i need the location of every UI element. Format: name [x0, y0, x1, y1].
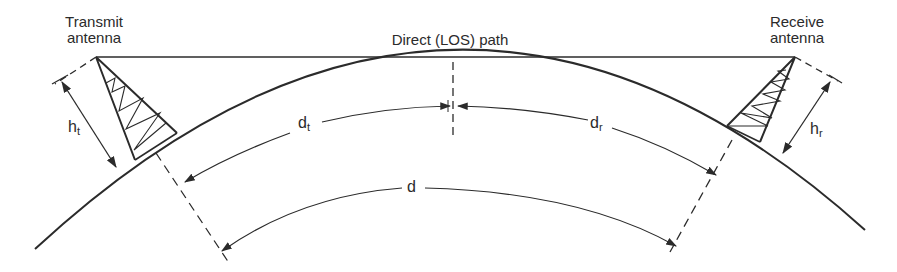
los-path-label: Direct (LOS) path	[330, 32, 570, 48]
dr-distance-arrow	[612, 128, 716, 175]
transmit-antenna-tower	[96, 57, 177, 160]
total-distance-arrow-right	[425, 188, 676, 246]
receive-label-line2: antenna	[747, 30, 847, 46]
left-radial-dashed-line	[156, 153, 229, 263]
dt-label: dt	[296, 115, 312, 135]
right-radial-dashed-line	[670, 140, 732, 252]
dt-distance-arrow	[185, 133, 290, 182]
receive-label-line1: Receive	[747, 14, 847, 30]
receive-antenna-label: Receive antenna	[747, 14, 847, 46]
d-label: d	[405, 179, 418, 195]
total-distance-arrow-left	[222, 188, 402, 251]
earth-surface-arc	[35, 50, 865, 249]
dr-label: dr	[588, 115, 605, 135]
dt-distance-arrow-right	[322, 106, 450, 122]
transmit-antenna-label: Transmit antenna	[44, 14, 144, 46]
receive-antenna-tower	[727, 57, 795, 142]
hr-label: hr	[808, 121, 825, 141]
transmit-label-line2: antenna	[44, 30, 144, 46]
ht-label: ht	[66, 119, 82, 139]
transmit-label-line1: Transmit	[44, 14, 144, 30]
transmit-height-dimension	[52, 57, 116, 167]
dr-distance-arrow-left	[458, 106, 588, 120]
